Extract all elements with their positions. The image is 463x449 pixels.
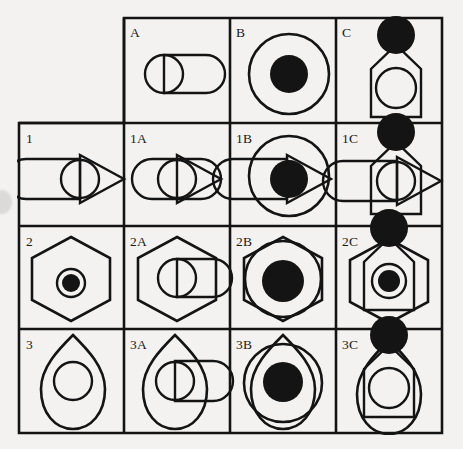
cell-label-3: 3 — [26, 338, 33, 352]
cell-label-3A: 3A — [130, 338, 147, 352]
cell-1 — [17, 155, 124, 203]
cell-2A — [138, 237, 232, 321]
cell-2 — [32, 237, 110, 321]
cell-label-2C: 2C — [342, 235, 358, 249]
figure-matrix: A B C 1 1A 1B 1C 2 2A 2B 2C 3 3A 3B 3C — [17, 16, 444, 435]
cell-label-2B: 2B — [236, 235, 252, 249]
cell-A — [145, 55, 225, 93]
cell-3 — [41, 335, 105, 429]
cell-label-C: C — [342, 26, 351, 40]
cell-1A — [132, 155, 221, 203]
cell-label-2A: 2A — [130, 235, 147, 249]
cell-3C — [357, 316, 421, 434]
cell-3B — [244, 335, 322, 429]
cell-label-3B: 3B — [236, 338, 252, 352]
cell-label-1A: 1A — [130, 132, 147, 146]
scanned-page-background: A B C 1 1A 1B 1C 2 2A 2B 2C 3 3A 3B 3C — [0, 0, 463, 449]
cell-label-1B: 1B — [236, 132, 252, 146]
cell-label-1: 1 — [26, 132, 33, 146]
cell-B — [249, 34, 329, 114]
cell-2B — [244, 237, 322, 321]
cell-3A — [143, 335, 233, 429]
cell-label-A: A — [130, 26, 140, 40]
cell-label-1C: 1C — [342, 132, 358, 146]
cell-label-2: 2 — [26, 235, 33, 249]
cell-1C — [323, 113, 441, 214]
matrix-canvas — [17, 16, 444, 435]
scan-artifact-blob — [0, 190, 12, 214]
cell-C — [371, 16, 421, 117]
cell-label-3C: 3C — [342, 338, 358, 352]
cell-label-B: B — [236, 26, 245, 40]
